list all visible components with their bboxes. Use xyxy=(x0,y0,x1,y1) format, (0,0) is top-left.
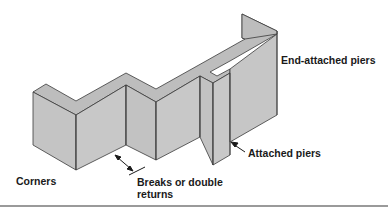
pier-left-face xyxy=(200,76,213,165)
breaks-dimension-arrow xyxy=(115,155,145,175)
pier-front-face xyxy=(213,73,230,165)
label-breaks-or-double-returns: Breaks or double returns xyxy=(137,176,223,200)
label-attached-piers: Attached piers xyxy=(248,147,321,159)
attached-piers-arrow xyxy=(231,142,245,152)
label-breaks-line2: returns xyxy=(137,188,223,200)
label-end-attached-piers: End-attached piers xyxy=(281,54,376,66)
bottom-divider xyxy=(0,205,388,207)
label-corners: Corners xyxy=(16,175,56,187)
label-breaks-line1: Breaks or double xyxy=(137,176,223,188)
